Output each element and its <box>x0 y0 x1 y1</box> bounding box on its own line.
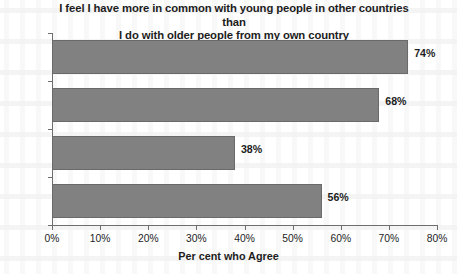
x-axis-tick-label: 20% <box>138 233 159 244</box>
x-axis-tick <box>100 226 101 230</box>
y-axis-tick <box>48 129 52 130</box>
x-axis-tick <box>245 226 246 230</box>
x-axis-tick <box>389 226 390 230</box>
x-axis-title: Per cent who Agree <box>0 250 457 262</box>
x-axis-tick-label: 60% <box>330 233 351 244</box>
y-axis-tick <box>48 177 52 178</box>
bar-chart-figure: I feel I have more in common with young … <box>0 0 457 274</box>
bar-category-band: China74% <box>52 33 437 81</box>
bar[interactable] <box>52 184 322 218</box>
bar-category-band: Brazil56% <box>52 177 437 225</box>
bar-category-band: Russia38% <box>52 129 437 177</box>
bar-value-label: 38% <box>241 143 262 155</box>
y-axis-tick <box>48 81 52 82</box>
x-axis-tick <box>341 226 342 230</box>
x-axis-tick-label: 0% <box>45 233 60 244</box>
bar-value-label: 56% <box>328 191 349 203</box>
x-axis-tick-label: 70% <box>379 233 400 244</box>
x-axis-tick <box>148 226 149 230</box>
x-axis-tick-label: 50% <box>282 233 303 244</box>
x-axis-tick-label: 40% <box>234 233 255 244</box>
bar[interactable] <box>52 88 379 122</box>
y-axis-tick <box>48 33 52 34</box>
x-axis-tick-label: 10% <box>90 233 111 244</box>
bar[interactable] <box>52 40 408 74</box>
bar-category-band: India68% <box>52 81 437 129</box>
x-axis-tick <box>196 226 197 230</box>
bar-value-label: 74% <box>414 47 435 59</box>
bar[interactable] <box>52 136 235 170</box>
x-axis-tick <box>52 226 53 230</box>
x-axis-tick-label: 30% <box>186 233 207 244</box>
x-axis-tick-label: 80% <box>427 233 448 244</box>
plot-area: China74%India68%Russia38%Brazil56% <box>52 33 437 225</box>
x-axis-tick <box>293 226 294 230</box>
bar-value-label: 68% <box>385 95 406 107</box>
x-axis-tick <box>437 226 438 230</box>
